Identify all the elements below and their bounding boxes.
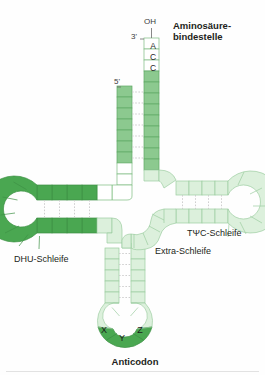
five-prime-label: 5' (114, 78, 120, 87)
tpc-stem-upper-strand (176, 181, 228, 195)
anticodon-label: Anticodon (80, 357, 190, 368)
three-prime-label: 3' (131, 33, 137, 42)
anticodon-stem-left-strand (105, 248, 119, 303)
anticodon-base-y: Y (116, 333, 128, 343)
anticodon-base-z: Z (134, 325, 146, 335)
dhu-stem-upper-strand (37, 185, 97, 200)
acceptor-to-tpc-connector (144, 170, 176, 188)
dhu-loop-ring (0, 176, 40, 249)
extra-loop-label: Extra-Schleife (155, 246, 211, 256)
dhu-stem-base-pairs (45, 200, 90, 218)
trna-svg: .dk { fill:#4aa751; stroke:#3e9145; stro… (0, 0, 265, 375)
tpc-stem-lower-strand (176, 209, 228, 223)
acceptor-stem-5prime-strand (117, 86, 132, 185)
acceptor-nucleotide-1: A (147, 41, 159, 51)
dhu-loop-label: DHU-Schleife (14, 254, 69, 264)
anticodon-base-x: X (98, 325, 110, 335)
acceptor-to-dhu-connector (97, 185, 132, 200)
amino-acid-site-label: Aminosäure- bindestelle (173, 21, 231, 42)
hydroxyl-label: OH (144, 18, 156, 27)
extra-loop-chain (131, 209, 176, 250)
acceptor-nucleotide-2: C (147, 52, 159, 62)
anticodon-stem-right-strand (131, 248, 145, 303)
dhu-to-anticodon-connector (97, 218, 122, 243)
tpc-loop-label: TΨC-Schleife (187, 228, 242, 238)
trna-cloverleaf-diagram: .dk { fill:#4aa751; stroke:#3e9145; stro… (0, 0, 265, 375)
tpc-stem-base-pairs (183, 195, 222, 209)
central-junction (122, 234, 131, 248)
acceptor-nucleotide-3: C (147, 63, 159, 73)
acceptor-stem-base-pairs (132, 92, 144, 158)
dhu-stem-lower-strand (37, 218, 97, 233)
anticodon-stem-base-pairs (119, 254, 131, 298)
footer-rule (6, 371, 259, 372)
